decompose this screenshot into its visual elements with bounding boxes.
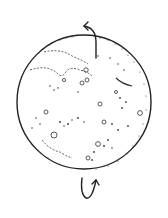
planet-sphere <box>17 35 151 169</box>
rotation-arrow-bottom-icon <box>82 178 100 198</box>
planet-illustration <box>0 0 168 218</box>
